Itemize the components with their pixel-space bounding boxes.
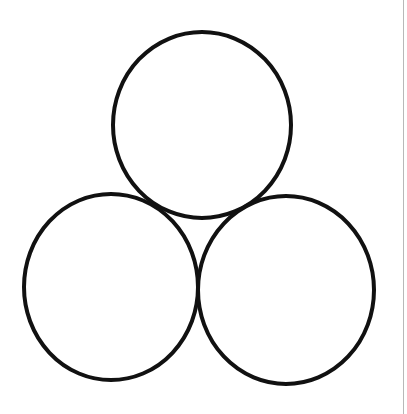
circles-svg	[0, 0, 407, 414]
right-edge-divider	[403, 0, 404, 414]
circle-bottom-left	[24, 194, 198, 380]
circle-bottom-right	[198, 196, 374, 384]
diagram-canvas	[0, 0, 407, 414]
circle-top	[113, 32, 291, 218]
